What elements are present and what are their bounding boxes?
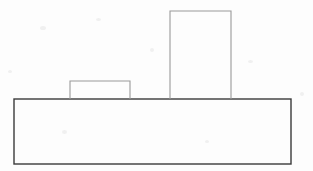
base-plate-outline: [14, 99, 291, 164]
line-drawing-svg: [0, 0, 313, 171]
short-boss-outline: [70, 81, 130, 99]
drawing-canvas: [0, 0, 313, 171]
tall-boss-outline: [170, 11, 231, 99]
